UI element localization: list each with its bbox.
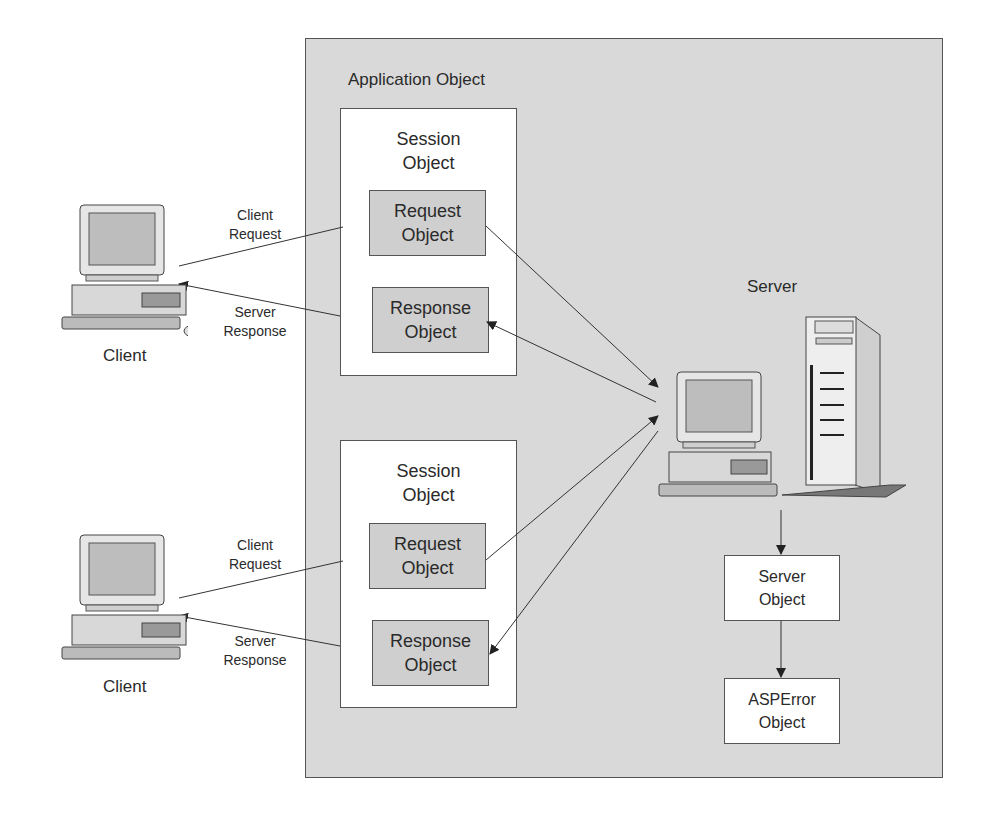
server-workstation-icon [655, 370, 785, 510]
client-computer-icon [58, 203, 188, 343]
client-computer-icon [58, 533, 188, 673]
server-tower-icon [780, 305, 910, 505]
